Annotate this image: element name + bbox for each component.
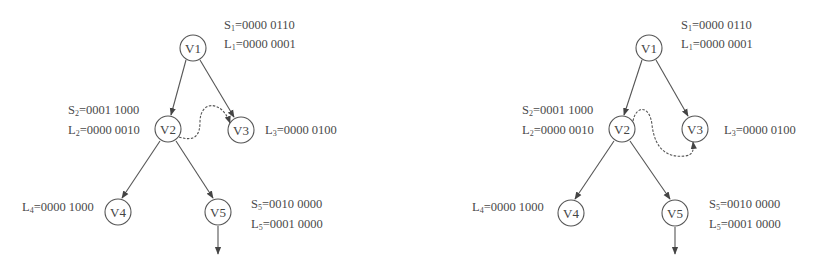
svg-text:V5: V5 [210, 205, 226, 220]
svg-text:V3: V3 [233, 123, 249, 138]
dashed-edge-v2-v3 [179, 106, 230, 139]
label-s1: S1=0000 0110 [224, 18, 295, 33]
right-diagram: V1 V2 V3 V4 V5 S1=0000 0110 L1=0000 0001… [472, 18, 796, 254]
svg-text:V4: V4 [563, 206, 579, 221]
node-v3: V3 [228, 117, 254, 143]
label-l4: L4=0000 1000 [22, 200, 94, 215]
node-v4: V4 [105, 199, 131, 225]
edge-v1-v3 [200, 60, 234, 117]
label-l2: L2=0000 0010 [68, 123, 140, 138]
node-v4: V4 [558, 200, 584, 226]
edge-v1-v3 [656, 60, 688, 116]
label-l5: L5=0001 0000 [251, 217, 323, 232]
edge-v2-v4 [575, 141, 614, 199]
svg-text:V3: V3 [687, 122, 703, 137]
label-l4: L4=0000 1000 [472, 200, 544, 215]
label-s2: S2=0001 1000 [68, 103, 139, 118]
label-l2: L2=0000 0010 [522, 123, 594, 138]
label-l1: L1=0000 0001 [681, 37, 753, 52]
label-l3: L3=0000 0100 [724, 123, 796, 138]
label-l3: L3=0000 0100 [265, 123, 337, 138]
edge-v1-v2 [624, 60, 642, 115]
label-l1: L1=0000 0001 [224, 37, 296, 52]
diagram-canvas: V1 V2 V3 V4 V5 S1=0000 0110 L1=0000 0001… [0, 0, 826, 266]
label-s1: S1=0000 0110 [681, 18, 752, 33]
left-diagram: V1 V2 V3 V4 V5 S1=0000 0110 L1=0000 0001… [22, 18, 337, 254]
svg-text:V5: V5 [667, 206, 683, 221]
svg-text:V1: V1 [641, 41, 657, 56]
svg-text:V1: V1 [185, 41, 201, 56]
node-v2: V2 [609, 116, 635, 142]
node-v5: V5 [662, 200, 688, 226]
node-v3: V3 [682, 116, 708, 142]
edge-v2-v5 [176, 141, 213, 198]
svg-text:V2: V2 [160, 122, 176, 137]
edge-v1-v2 [171, 60, 186, 115]
label-s5: S5=0010 0000 [251, 197, 322, 212]
svg-text:V2: V2 [614, 122, 630, 137]
label-l5: L5=0001 0000 [709, 217, 781, 232]
node-v2: V2 [155, 116, 181, 142]
label-s5: S5=0010 0000 [709, 197, 780, 212]
node-v1: V1 [636, 35, 662, 61]
node-v1: V1 [180, 35, 206, 61]
edge-v2-v5 [630, 141, 670, 199]
label-s2: S2=0001 1000 [522, 103, 593, 118]
node-v5: V5 [205, 199, 231, 225]
edge-v2-v4 [122, 141, 160, 198]
svg-text:V4: V4 [110, 205, 126, 220]
